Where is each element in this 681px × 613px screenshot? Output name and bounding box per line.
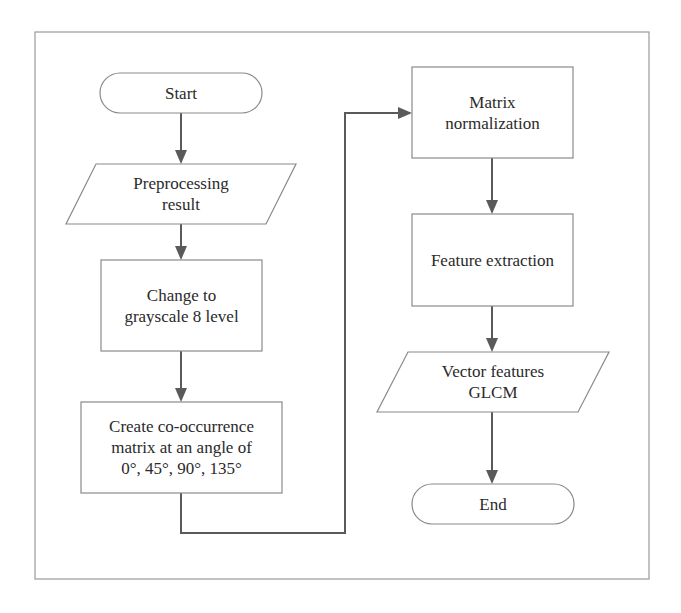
- arrowhead-icon: [486, 470, 498, 484]
- arrowhead-icon: [486, 200, 498, 214]
- node-extraction-label: Feature extraction: [412, 214, 573, 306]
- node-normalization-label: Matrix normalization: [412, 67, 573, 158]
- arrowhead-icon: [486, 338, 498, 352]
- node-end-label: End: [412, 484, 574, 524]
- node-vector-label: Vector features GLCM: [377, 352, 609, 412]
- node-start-label: Start: [100, 73, 262, 113]
- node-cooccurrence-label: Create co-occurrence matrix at an angle …: [81, 402, 282, 493]
- arrowhead-icon: [398, 107, 412, 119]
- arrowhead-icon: [175, 150, 187, 164]
- arrowhead-icon: [175, 388, 187, 402]
- node-grayscale-label: Change to grayscale 8 level: [101, 260, 262, 351]
- node-preprocessing-label: Preprocessing result: [66, 164, 296, 224]
- arrowhead-icon: [175, 246, 187, 260]
